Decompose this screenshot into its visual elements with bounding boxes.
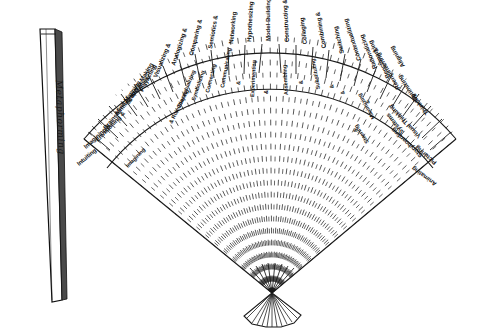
fan-tail <box>244 293 301 327</box>
closed-fan <box>40 29 67 302</box>
rib-label-9: Visualizing & <box>151 41 171 78</box>
rib-label-27: Combining & <box>314 11 327 49</box>
rib-label-15: Semiotics & <box>206 14 219 49</box>
fan-inner-arc <box>107 89 433 168</box>
fan-rib-labels: Intuiting Imagining & Envisioning & Imag… <box>75 0 437 188</box>
rib-label-20: Experimenting <box>249 60 257 97</box>
rib-label-26: & <box>298 80 304 85</box>
rib-label-17: Networking <box>227 11 237 44</box>
rib-label-21: Model-Building <box>264 0 271 41</box>
rib-label-22: & <box>263 90 269 94</box>
rib-label-37: Aligning <box>388 45 406 69</box>
rib-label-38: Maximizing <box>356 93 376 121</box>
rib-label-32: & <box>339 90 346 96</box>
rib-label-30: & <box>328 84 335 89</box>
open-fan: Intuiting Imagining & Envisioning & Imag… <box>75 0 456 327</box>
rib-label-47: Animating <box>410 165 438 188</box>
rib-label-13: Comparing & <box>187 18 203 56</box>
rib-label-28: Substituting <box>310 58 321 89</box>
rib-label-40: Steering <box>353 124 370 145</box>
metaphorming-fan-illustration: Metaphorming <box>0 0 496 334</box>
rib-label-14: Connecting <box>204 63 217 93</box>
rib-label-25: Collaging <box>298 17 308 45</box>
figure-root: Metaphorming <box>0 0 496 334</box>
rib-label-16: Communicating <box>219 47 232 88</box>
rib-label-24: Assembling <box>281 65 289 95</box>
rib-label-19: Hypothesizing & <box>245 0 254 42</box>
rib-label-18: & <box>235 80 241 85</box>
rib-label-29: Switching <box>331 25 345 54</box>
rib-label-23: Constructing & <box>281 0 290 42</box>
rib-label-11: Analogizing & <box>169 26 188 66</box>
